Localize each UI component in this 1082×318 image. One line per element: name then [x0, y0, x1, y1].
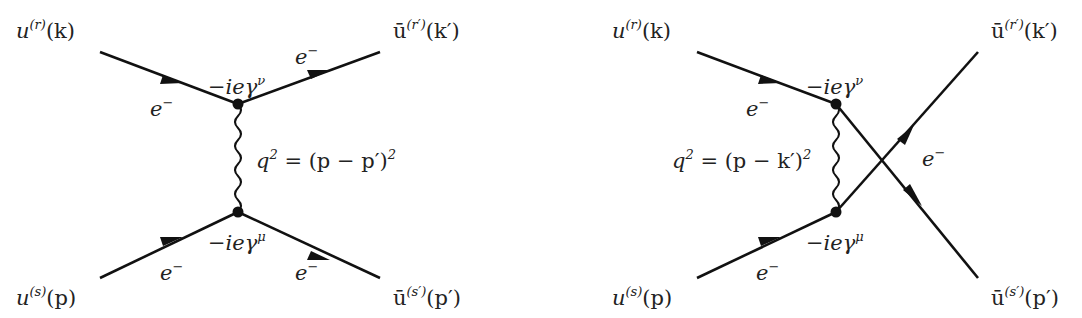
vertex-top [233, 99, 244, 110]
arrow-out-top-icon [307, 70, 330, 79]
label-out-top: ū(r′)(k′) [393, 18, 460, 42]
arrow-cross-down-icon [903, 184, 922, 206]
label-e-in-bottom: e− [756, 260, 779, 284]
label-in-bottom: u(s)(p) [612, 285, 672, 309]
label-e-out-bottom: e− [295, 260, 318, 284]
label-vertex-top: −ieγν [806, 74, 863, 98]
label-e-out-top: e− [295, 44, 318, 68]
label-out-bottom: ū(s′)(p′) [393, 285, 461, 309]
label-e-cross: e− [922, 146, 945, 170]
label-in-bottom: u(s)(p) [16, 285, 76, 309]
vertex-bottom [831, 207, 842, 218]
label-e-in-top: e− [746, 96, 769, 120]
label-in-top: u(r)(k) [612, 18, 671, 42]
label-vertex-top: −ieγν [208, 74, 265, 98]
label-vertex-bottom: −ieγμ [208, 230, 266, 254]
label-in-top: u(r)(k) [16, 18, 75, 42]
arrow-in-top-icon [758, 75, 781, 84]
vertex-bottom [233, 207, 244, 218]
label-e-in-top: e− [150, 96, 173, 120]
label-propagator: q2 = (p − p′)2 [256, 148, 396, 172]
arrow-in-top-icon [160, 75, 183, 84]
photon-propagator [235, 104, 241, 212]
vertex-top [831, 99, 842, 110]
label-out-bottom: ū(s′)(p′) [991, 285, 1059, 309]
label-vertex-bottom: −ieγμ [806, 230, 864, 254]
label-e-in-bottom: e− [160, 260, 183, 284]
label-propagator: q2 = (p − k′)2 [672, 148, 811, 172]
label-out-top: ū(r′)(k′) [991, 18, 1058, 42]
photon-propagator [833, 104, 839, 212]
